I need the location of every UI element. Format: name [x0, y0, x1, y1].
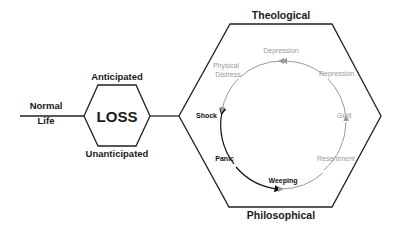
- stage-resentment: Resentment: [317, 155, 355, 162]
- arc-depression-distress: [240, 61, 281, 77]
- normal-life-label-line1: Normal: [30, 100, 63, 111]
- stage-guilt: Guilt: [337, 112, 351, 119]
- stage-depression: Depression: [263, 47, 299, 55]
- stage-physical-distress-line2: Distress: [215, 71, 241, 78]
- philosophical-label: Philosophical: [247, 209, 315, 221]
- loss-title: LOSS: [97, 108, 138, 125]
- arc-repression-depression: [284, 61, 324, 75]
- arc-resentment-guilt: [324, 122, 346, 170]
- anticipated-label: Anticipated: [91, 71, 143, 82]
- normal-life-label-line2: Life: [38, 115, 55, 126]
- stage-shock: Shock: [196, 112, 217, 119]
- stage-physical-distress-line1: Physical: [213, 62, 240, 70]
- stage-repression: Repression: [319, 70, 355, 78]
- arc-distress-shock: [222, 79, 238, 110]
- theological-label: Theological: [252, 9, 310, 21]
- grief-cycle-diagram: Normal Life LOSS Anticipated Unanticipat…: [0, 0, 402, 234]
- unanticipated-label: Unanticipated: [86, 148, 149, 159]
- stage-weeping: Weeping: [268, 177, 297, 185]
- stage-panic: Panic: [215, 155, 234, 162]
